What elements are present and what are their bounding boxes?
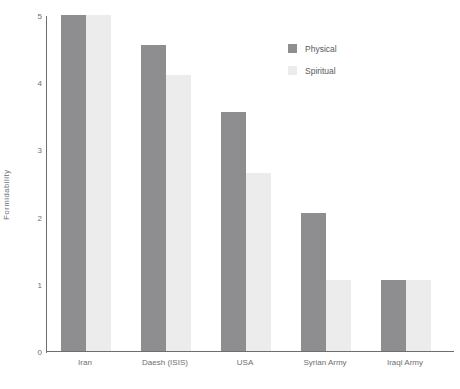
legend-item[interactable]: Spiritual (288, 62, 398, 79)
bar-spiritual[interactable] (326, 280, 351, 351)
x-category-label: Iran (40, 358, 130, 367)
bar-group (221, 15, 272, 351)
x-category-label: Iraqi Army (360, 358, 450, 367)
bar-physical[interactable] (301, 213, 326, 351)
legend-swatch-icon (288, 44, 297, 53)
y-axis-title: Formidability (0, 0, 14, 389)
bar-physical[interactable] (141, 45, 166, 351)
y-tick-label: 0 (26, 348, 42, 357)
y-tick-label: 2 (26, 213, 42, 222)
x-category-label: USA (200, 358, 290, 367)
bar-physical[interactable] (221, 112, 246, 351)
bar-spiritual[interactable] (246, 173, 271, 351)
bar-physical[interactable] (381, 280, 406, 351)
legend-label: Spiritual (305, 66, 336, 76)
bar-physical[interactable] (61, 15, 86, 351)
y-axis-tick-labels: 543210 (22, 16, 42, 352)
bar-spiritual[interactable] (406, 280, 431, 351)
bar-spiritual[interactable] (166, 75, 191, 351)
legend-label: Physical (305, 44, 337, 54)
x-axis-line (46, 351, 454, 352)
legend-item[interactable]: Physical (288, 40, 398, 57)
bar-spiritual[interactable] (86, 15, 111, 351)
bar-group (141, 15, 192, 351)
x-axis-category-labels: IranDaesh (ISIS)USASyrian ArmyIraqi Army (46, 358, 454, 374)
x-category-label: Syrian Army (280, 358, 370, 367)
y-tick-label: 4 (26, 79, 42, 88)
y-tick-label: 5 (26, 12, 42, 21)
legend-swatch-icon (288, 66, 297, 75)
bar-group (61, 15, 112, 351)
cut-off-header-text (0, 0, 460, 7)
bar-chart: Formidability 543210 IranDaesh (ISIS)USA… (0, 0, 460, 389)
x-category-label: Daesh (ISIS) (120, 358, 210, 367)
legend: PhysicalSpiritual (288, 40, 398, 84)
y-tick-label: 3 (26, 146, 42, 155)
y-tick-label: 1 (26, 280, 42, 289)
